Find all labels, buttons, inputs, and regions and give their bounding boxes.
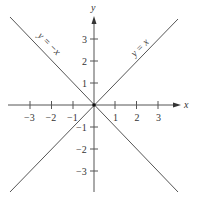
y-tick-label: −1 (76, 122, 87, 133)
x-axis-arrow-icon (173, 103, 181, 108)
y-tick-label: −3 (76, 166, 87, 177)
y-tick-label: −2 (76, 144, 87, 155)
origin-point (92, 103, 96, 107)
y-axis-label: y (90, 2, 96, 13)
y-tick-label: 2 (82, 56, 87, 67)
x-tick-label: 3 (156, 112, 161, 123)
x-tick-labels: −3 −2 −1 1 2 3 (24, 112, 161, 123)
label-y-equals-negative-x: y = −x (35, 29, 63, 57)
coordinate-plane-diagram: x y −3 −2 −1 1 2 3 (0, 0, 203, 202)
y-tick-label: 3 (82, 34, 87, 45)
y-axis: y (90, 2, 97, 192)
y-tick-label: 1 (82, 78, 87, 89)
x-tick-label: −3 (24, 112, 35, 123)
x-axis-label: x (183, 99, 189, 110)
y-axis-arrow-icon (92, 16, 97, 24)
x-tick-label: −2 (46, 112, 57, 123)
x-tick-label: 1 (113, 112, 118, 123)
x-tick-label: 2 (135, 112, 140, 123)
label-y-equals-x: y = x (128, 36, 151, 59)
